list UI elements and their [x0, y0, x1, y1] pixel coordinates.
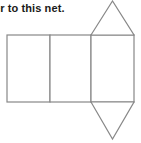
triangle-bottom — [91, 102, 134, 139]
triangle-top — [91, 1, 134, 35]
net-rectangles — [7, 35, 134, 102]
rectangle-right — [91, 35, 134, 102]
rectangle-middle — [50, 35, 91, 102]
rectangle-left — [7, 35, 50, 102]
net-diagram — [0, 0, 141, 143]
screenshot-root: er to this net. — [0, 0, 141, 143]
